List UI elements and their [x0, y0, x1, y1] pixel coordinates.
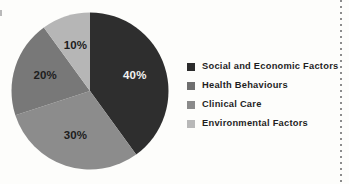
legend-swatch-icon	[187, 82, 195, 90]
legend-item-clinical-care[interactable]: Clinical Care	[187, 95, 339, 114]
legend-swatch-icon	[187, 101, 195, 109]
page-edge-artifact	[0, 10, 2, 16]
pie-slice-group	[11, 13, 168, 170]
legend-item-label: Health Behaviours	[202, 81, 288, 90]
pie-chart-figure: 40%30%20%10% Social and Economic Factors…	[0, 0, 349, 184]
legend-item-social-and-economic-factors[interactable]: Social and Economic Factors	[187, 57, 339, 76]
page-margin-dotted-rule	[340, 0, 342, 184]
pie-slice-value-label: 40%	[123, 69, 147, 81]
legend-swatch-icon	[187, 120, 195, 128]
pie-slice-value-label: 20%	[33, 69, 57, 81]
pie-slice-value-label: 30%	[64, 129, 88, 141]
chart-legend: Social and Economic Factors Health Behav…	[187, 57, 339, 133]
legend-item-label: Clinical Care	[202, 100, 262, 109]
legend-item-label: Environmental Factors	[202, 119, 308, 128]
pie-slice-value-label: 10%	[64, 39, 88, 51]
pie-chart: 40%30%20%10%	[11, 12, 169, 170]
legend-item-label: Social and Economic Factors	[202, 62, 338, 71]
legend-item-environmental-factors[interactable]: Environmental Factors	[187, 114, 339, 133]
legend-item-health-behaviours[interactable]: Health Behaviours	[187, 76, 339, 95]
pie-chart-svg: 40%30%20%10%	[11, 12, 169, 170]
legend-swatch-icon	[187, 63, 195, 71]
